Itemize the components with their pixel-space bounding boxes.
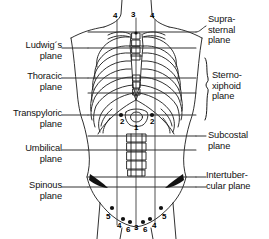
marker-dot-5-left <box>110 206 114 210</box>
lumbar-spine <box>127 134 146 176</box>
body-outline <box>71 0 202 239</box>
marker-label-top-4-left: 4 <box>113 12 117 20</box>
marker-label-bot-4-right: 4 <box>152 222 156 230</box>
marker-label-bot-5-right: 5 <box>162 213 166 221</box>
marker-label-mid-2-left: 2 <box>120 118 124 126</box>
label-ludwigs-plane: Ludwig´s plane <box>8 40 62 61</box>
label-suprasternal-plane: Supra- sternal plane <box>208 14 268 46</box>
sternoxiphoid-bracket <box>205 58 208 120</box>
marker-dot-6-right <box>141 220 145 224</box>
marker-label-top-3: 3 <box>131 11 135 19</box>
marker-dot-median-top <box>134 31 137 34</box>
label-subcostal-plane: Subcostal plane <box>208 130 268 151</box>
label-sternoxiphoid-plane: Sterno- xiphoid plane <box>212 70 268 102</box>
marker-label-bot-6-left: 6 <box>126 226 130 234</box>
marker-label-bot-4-left: 4 <box>117 222 121 230</box>
marker-dot-5-right <box>159 206 163 210</box>
marker-dot-4-left <box>121 217 125 221</box>
leader-suprasternal <box>196 26 206 32</box>
label-thoracic-plane: Thoracic plane <box>8 71 62 92</box>
label-spinous-plane: Spinous plane <box>8 180 62 201</box>
label-intertubercular-plane: Intertuber- cular plane <box>206 170 269 191</box>
marker-label-mid-1: 1 <box>134 124 138 132</box>
marker-dot-6-left <box>128 220 132 224</box>
marker-label-bot-3: 3 <box>134 224 138 232</box>
marker-label-mid-2-right: 2 <box>150 118 154 126</box>
marker-label-bot-5-left: 5 <box>106 213 110 221</box>
anatomical-planes-figure: Ludwig´s plane Thoracic plane Transpylor… <box>0 0 269 239</box>
marker-label-bot-6-right: 6 <box>143 226 147 234</box>
label-transpyloric-plane: Transpyloric plane <box>0 108 62 129</box>
ribs-right <box>136 37 182 134</box>
marker-label-top-4-right: 4 <box>150 12 154 20</box>
leader-lines-right <box>196 26 206 187</box>
label-umbilical-plane: Umbilical plane <box>4 143 62 164</box>
ribs-left <box>91 37 136 134</box>
